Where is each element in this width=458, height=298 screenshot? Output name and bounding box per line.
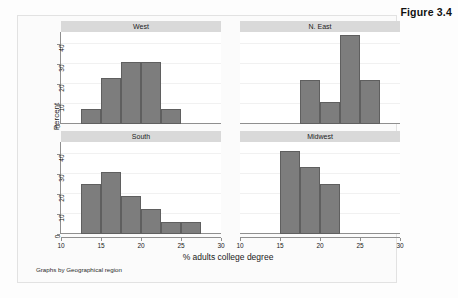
histogram-bar xyxy=(121,196,141,234)
histogram-bar xyxy=(141,62,161,124)
panel-n-east: N. East xyxy=(240,21,400,124)
histogram-bar xyxy=(101,172,121,234)
plot-area xyxy=(61,32,221,124)
x-axis-tick xyxy=(360,238,361,241)
y-axis-label: 10 xyxy=(58,215,65,222)
y-axis-label: 40 xyxy=(58,155,65,162)
y-axis-label: 30 xyxy=(58,65,65,72)
x-axis-tick xyxy=(181,238,182,241)
x-axis-tick xyxy=(240,238,241,241)
gridline xyxy=(61,173,221,174)
y-axis-label: 20 xyxy=(58,195,65,202)
x-axis-label: 30 xyxy=(211,242,231,249)
histogram-bar xyxy=(121,62,141,124)
x-axis-label: 15 xyxy=(91,242,111,249)
gridline xyxy=(61,153,221,154)
x-axis-tick xyxy=(320,238,321,241)
x-axis-label: 10 xyxy=(51,242,71,249)
y-axis-label: 20 xyxy=(58,85,65,92)
panel-title: Midwest xyxy=(307,133,333,140)
x-axis-label: 25 xyxy=(171,242,191,249)
x-axis-tick xyxy=(61,238,62,241)
x-axis-label: 25 xyxy=(350,242,370,249)
panel-strip: Midwest xyxy=(240,131,400,142)
figure-container: Figure 3.4 Percent West010203040N. EastS… xyxy=(0,0,458,298)
y-axis-label: 10 xyxy=(58,105,65,112)
panel-strip: N. East xyxy=(240,21,400,32)
x-axis-tick xyxy=(400,238,401,241)
x-axis-label: 30 xyxy=(390,242,410,249)
histogram-bar xyxy=(300,167,320,234)
histogram-bar xyxy=(280,151,300,234)
gridline xyxy=(61,43,221,44)
x-axis-title: % adults college degree xyxy=(78,252,378,262)
panel-title: West xyxy=(133,23,149,30)
y-axis-label: 0 xyxy=(54,125,61,129)
gridline xyxy=(240,43,400,44)
gridline xyxy=(240,173,400,174)
x-axis-tick xyxy=(141,238,142,241)
panel-title: N. East xyxy=(309,23,332,30)
panel-strip: West xyxy=(61,21,221,32)
histogram-bar xyxy=(161,109,181,124)
plot-area xyxy=(61,142,221,234)
histogram-bar xyxy=(161,222,181,234)
figure-caption: Figure 3.4 xyxy=(400,6,452,18)
histogram-bar xyxy=(300,80,320,124)
x-axis-tick xyxy=(280,238,281,241)
figure-note: Graphs by Geographical region xyxy=(36,266,122,273)
x-axis-tick xyxy=(221,238,222,241)
x-axis-label: 15 xyxy=(270,242,290,249)
histogram-bar xyxy=(320,102,340,124)
histogram-bar xyxy=(320,184,340,234)
histogram-bar xyxy=(81,184,101,234)
histogram-bar xyxy=(181,222,201,234)
panel-south: South0102030401015202530 xyxy=(61,131,221,234)
panel-west: West010203040 xyxy=(61,21,221,124)
histogram-bar xyxy=(340,35,360,124)
panel-strip: South xyxy=(61,131,221,142)
graph-frame: Percent West010203040N. EastSouth0102030… xyxy=(17,15,397,283)
gridline xyxy=(240,63,400,64)
y-axis-label: 40 xyxy=(58,45,65,52)
x-axis-label: 10 xyxy=(230,242,250,249)
y-axis-label: 30 xyxy=(58,175,65,182)
x-axis-label: 20 xyxy=(131,242,151,249)
gridline xyxy=(240,153,400,154)
histogram-bar xyxy=(81,109,101,124)
plot-area xyxy=(240,32,400,124)
histogram-bar xyxy=(360,80,380,124)
panel-title: South xyxy=(132,133,150,140)
histogram-bar xyxy=(141,209,161,234)
x-axis-label: 20 xyxy=(310,242,330,249)
plot-area xyxy=(240,142,400,234)
histogram-bar xyxy=(101,78,121,124)
x-axis-tick xyxy=(101,238,102,241)
panel-midwest: Midwest1015202530 xyxy=(240,131,400,234)
